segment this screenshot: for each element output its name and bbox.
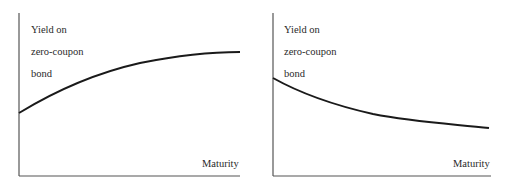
y-axis-label: Yield on zero-coupon bond [284,13,336,90]
x-axis-label: Maturity [202,158,239,170]
y-axis-label-line: Yield on [31,24,83,35]
chart-upward-yield-curve: Yield on zero-coupon bond Maturity [0,0,253,189]
y-axis-label-line: bond [31,68,83,79]
y-axis-label-line: bond [284,68,336,79]
y-axis-label-line: Yield on [284,24,336,35]
y-axis-label: Yield on zero-coupon bond [31,13,83,90]
x-axis-label: Maturity [453,158,490,170]
chart-downward-yield-curve: Yield on zero-coupon bond Maturity [253,0,507,189]
y-axis-label-line: zero-coupon [284,46,336,57]
y-axis-label-line: zero-coupon [31,46,83,57]
